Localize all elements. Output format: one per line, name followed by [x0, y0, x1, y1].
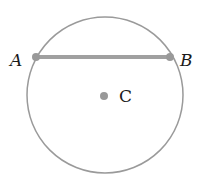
label-b: B [179, 50, 193, 70]
label-c: C [119, 86, 132, 106]
label-a: A [8, 50, 22, 70]
point-b [166, 53, 174, 61]
circle-diagram: A B C [0, 0, 201, 175]
point-a [32, 53, 40, 61]
center-point-c [100, 92, 108, 100]
